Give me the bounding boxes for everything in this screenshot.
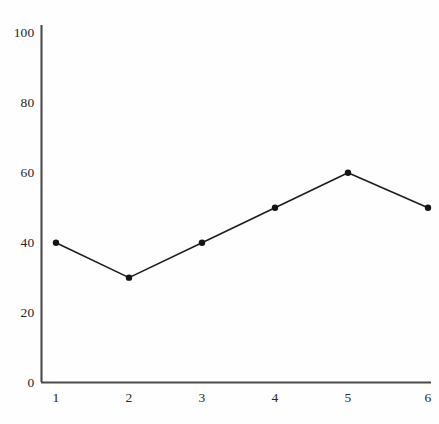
y-tick-label: 40	[21, 236, 35, 250]
y-tick-label: 80	[21, 96, 35, 110]
x-tick-label: 1	[53, 391, 60, 405]
series-markers	[53, 170, 431, 281]
data-point	[272, 205, 278, 211]
x-tick-label: 6	[425, 391, 432, 405]
line-chart-plot	[0, 0, 439, 424]
data-series-group	[53, 170, 431, 281]
y-tick-label: 20	[21, 306, 35, 320]
x-tick-label: 5	[345, 391, 352, 405]
y-tick-label: 60	[21, 166, 35, 180]
y-tick-label: 0	[28, 376, 35, 390]
chart-figure: 020406080100 123456	[0, 0, 439, 424]
x-tick-label: 3	[199, 391, 206, 405]
y-tick-label: 100	[14, 26, 35, 40]
data-point	[199, 240, 205, 246]
series-line	[56, 173, 428, 278]
axis-lines	[41, 25, 431, 383]
data-point	[345, 170, 351, 176]
data-point	[126, 274, 132, 280]
x-tick-label: 2	[126, 391, 133, 405]
data-point	[53, 240, 59, 246]
x-tick-label: 4	[272, 391, 279, 405]
data-point	[425, 205, 431, 211]
